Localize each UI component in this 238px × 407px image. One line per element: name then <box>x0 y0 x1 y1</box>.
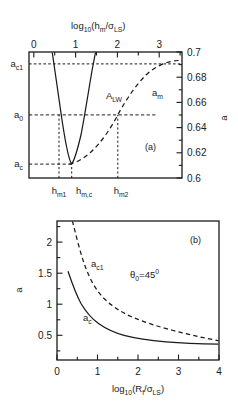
panel-a-right-tick-labels: 0.6 0.62 0.64 0.66 0.68 0.7 <box>187 47 207 184</box>
svg-text:3: 3 <box>156 39 162 50</box>
svg-text:2: 2 <box>135 366 141 377</box>
panel-a-label-am: am <box>152 87 163 100</box>
panel-b-label-ac: ac <box>83 312 92 325</box>
svg-text:hm2: hm2 <box>114 185 129 198</box>
svg-text:3: 3 <box>176 366 182 377</box>
svg-text:ac1: ac1 <box>11 58 24 71</box>
svg-text:1: 1 <box>46 299 52 310</box>
panel-b-y-tick-labels: 0.5 1 1.5 2 <box>38 237 52 341</box>
panel-a-right-axis-label: a <box>218 115 229 121</box>
svg-text:hm,c: hm,c <box>76 185 93 198</box>
panel-a-curve-am <box>69 60 181 164</box>
svg-text:1: 1 <box>73 39 79 50</box>
svg-text:0.6: 0.6 <box>187 173 201 184</box>
svg-text:2: 2 <box>115 39 121 50</box>
figure-svg: log10(hm/σLS) 0 1 2 3 <box>0 0 238 407</box>
panel-b-curve-ac <box>68 271 219 344</box>
svg-text:0.7: 0.7 <box>187 47 201 58</box>
panel-a-top-tick-labels: 0 1 2 3 <box>31 39 162 50</box>
panel-b: 0.5 1 1.5 2 a 0 1 2 3 4 l <box>13 221 222 396</box>
svg-text:1: 1 <box>95 366 101 377</box>
panel-b-x-axis-title: log10(Rf/σLS) <box>112 383 164 396</box>
svg-text:4: 4 <box>216 366 222 377</box>
panel-b-x-tick-labels: 0 1 2 3 4 <box>54 366 222 377</box>
panel-a-right-ticks <box>177 52 183 178</box>
svg-text:1.5: 1.5 <box>38 268 52 279</box>
svg-text:0.64: 0.64 <box>187 122 207 133</box>
svg-text:0.66: 0.66 <box>187 97 207 108</box>
svg-text:0.62: 0.62 <box>187 147 207 158</box>
svg-text:hm1: hm1 <box>52 185 67 198</box>
svg-text:0.5: 0.5 <box>38 330 52 341</box>
svg-text:ac: ac <box>14 158 23 171</box>
panel-a: log10(hm/σLS) 0 1 2 3 <box>11 20 229 198</box>
panel-b-theta-annotation: θ0=450 <box>130 268 159 282</box>
svg-text:0.68: 0.68 <box>187 72 207 83</box>
panel-b-label: (b) <box>190 235 201 245</box>
panel-b-x-ticks <box>57 355 219 361</box>
svg-text:a0: a0 <box>14 109 23 122</box>
svg-text:0: 0 <box>54 366 60 377</box>
figure-container: log10(hm/σLS) 0 1 2 3 <box>0 0 238 407</box>
panel-b-y-ticks <box>57 227 63 351</box>
svg-text:0: 0 <box>31 39 37 50</box>
panel-a-label-ALW: ALW <box>106 90 123 103</box>
svg-text:log10(hm/σLS): log10(hm/σLS) <box>71 20 125 33</box>
svg-text:2: 2 <box>46 237 52 248</box>
panel-b-label-ac1: ac1 <box>91 258 104 271</box>
panel-b-y-axis-label: a <box>13 287 24 293</box>
panel-a-top-ticks <box>34 52 180 58</box>
panel-a-guide-lines <box>29 64 182 178</box>
panel-a-bottom-axis-markers: hm1 hm,c hm2 <box>52 185 129 198</box>
panel-a-top-axis-title: log10(hm/σLS) <box>71 20 125 33</box>
panel-a-label: (a) <box>145 142 156 152</box>
panel-a-left-axis-markers: ac1 a0 ac <box>11 58 24 171</box>
